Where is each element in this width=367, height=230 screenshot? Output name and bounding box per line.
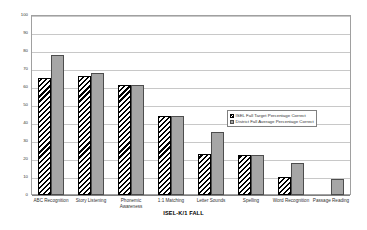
x-axis-label: Phonemic Awareness <box>111 198 151 209</box>
gridline <box>32 16 350 17</box>
x-axis-label: Word Recognition <box>271 198 311 209</box>
x-axis-label: Spelling <box>231 198 271 209</box>
gridline <box>32 34 350 35</box>
legend: ISEL Fall Target Percentage Correct Dist… <box>227 110 317 127</box>
y-axis-tick: 80 <box>0 49 28 53</box>
y-axis-tick: 10 <box>0 175 28 179</box>
gridline <box>32 70 350 71</box>
gridline <box>32 52 350 53</box>
x-axis-label: Story Listening <box>71 198 111 209</box>
y-axis-tick: 0 <box>0 193 28 197</box>
x-axis-line <box>32 195 350 196</box>
y-axis-tick: 40 <box>0 121 28 125</box>
y-axis-tick: 30 <box>0 139 28 143</box>
y-axis-tick: 90 <box>0 31 28 35</box>
y-axis-tick: 20 <box>0 157 28 161</box>
legend-item: ISEL Fall Target Percentage Correct <box>230 113 314 119</box>
legend-label: ISEL Fall Target Percentage Correct <box>236 113 306 118</box>
gridline <box>32 142 350 143</box>
x-axis-labels: ABC Recognition Story Listening Phonemic… <box>31 198 351 209</box>
bar-chart: 100 90 80 70 60 50 40 30 20 10 0 <box>0 0 367 230</box>
y-axis-tick: 60 <box>0 85 28 89</box>
gridline <box>32 178 350 179</box>
x-axis-label: Passage Reading <box>311 198 351 209</box>
legend-item: District Fall Average Percentage Correct <box>230 119 314 125</box>
legend-swatch-icon <box>230 114 234 118</box>
y-axis-tick: 70 <box>0 67 28 71</box>
gridline <box>32 106 350 107</box>
gridline <box>32 160 350 161</box>
x-axis-label: ABC Recognition <box>31 198 71 209</box>
legend-swatch-icon <box>230 120 234 124</box>
x-axis-label: Letter Sounds <box>191 198 231 209</box>
plot-area <box>31 15 351 195</box>
x-axis-title: ISEL-K/1 FALL <box>0 210 367 216</box>
y-axis-tick: 100 <box>0 13 28 17</box>
x-axis-label: 1:1 Matching <box>151 198 191 209</box>
gridline <box>32 88 350 89</box>
y-axis-tick: 50 <box>0 103 28 107</box>
legend-label: District Fall Average Percentage Correct <box>236 119 314 124</box>
